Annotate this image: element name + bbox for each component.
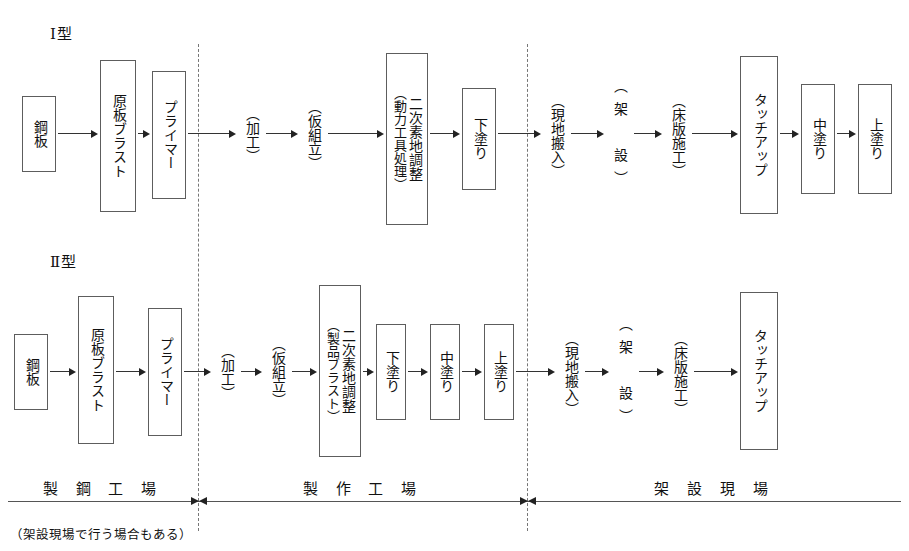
flow-arrow-head <box>229 130 236 138</box>
process-box: 二次素地調整（動力工具処理） <box>386 53 428 225</box>
flow-arrow-head <box>91 130 98 138</box>
process-text-stack: 上塗り <box>868 118 882 160</box>
flow-connector-line <box>408 371 421 372</box>
flow-arrow-head <box>849 130 856 138</box>
process-label-main: 下塗り <box>384 351 398 393</box>
zone-divider-1 <box>198 44 199 531</box>
flow-connector-line <box>498 133 534 134</box>
zone-ruler <box>8 501 901 502</box>
flow-arrow-head <box>534 130 541 138</box>
process-text-stack: 鋼板 <box>32 120 46 148</box>
process-text-stack: 二次素地調整（動力工具処理） <box>393 87 421 191</box>
process-box: 上塗り <box>484 324 514 420</box>
process-label-main: （現地搬入） <box>549 94 563 178</box>
flow-arrow-head <box>597 130 604 138</box>
process-text-stack: 原板ブラスト <box>111 94 125 178</box>
process-label-main: （加工） <box>219 344 233 400</box>
flow-connector-line <box>694 371 731 372</box>
zone-ruler-tick-1-left <box>191 497 199 505</box>
process-label: （架 設） <box>606 96 632 176</box>
process-label-main: （架 設） <box>612 79 626 194</box>
flow-arrow-head <box>69 368 76 376</box>
flow-arrow-head <box>310 368 317 376</box>
flow-connector-line <box>692 133 731 134</box>
process-label-main: （仮組立） <box>270 337 284 407</box>
flow-connector-line <box>571 133 597 134</box>
process-box: プライマー <box>152 71 186 199</box>
flow-arrow-head <box>657 368 664 376</box>
flow-arrow-head <box>792 130 799 138</box>
process-box: 下塗り <box>462 88 496 190</box>
process-box: 下塗り <box>376 324 406 420</box>
zone-divider-2 <box>527 44 528 531</box>
process-label: （床版施工） <box>666 334 692 414</box>
process-text-stack: （仮組立） <box>270 337 284 407</box>
process-label: （現地搬入） <box>543 96 569 176</box>
flow-connector-line <box>634 133 655 134</box>
process-label-main: 鋼板 <box>24 358 38 386</box>
process-box: タッチアップ <box>740 292 778 450</box>
process-label: （仮組立） <box>300 98 326 172</box>
flow-connector-line <box>639 371 657 372</box>
flow-arrow-head <box>655 130 662 138</box>
flow-connector-line <box>328 133 377 134</box>
row1-type-label: Ⅰ型 <box>50 22 73 43</box>
process-text-stack: プライマー <box>162 100 176 170</box>
process-text-stack: 原板ブラスト <box>89 328 103 412</box>
process-label: （加工） <box>238 104 264 166</box>
process-box: 鋼板 <box>14 334 48 410</box>
process-label-main: （仮組立） <box>306 100 320 170</box>
zone-ruler-tick-2-right <box>528 497 536 505</box>
flow-connector-line <box>50 371 69 372</box>
process-box: 二次素地調整（製品ブラスト） <box>319 285 361 457</box>
footnote-text: （架設現場で行う場合もある） <box>10 524 192 543</box>
process-box: プライマー <box>148 308 182 436</box>
process-text-stack: 下塗り <box>384 351 398 393</box>
process-text-stack: 鋼板 <box>24 358 38 386</box>
process-label-main: 上塗り <box>492 351 506 393</box>
process-label-main: 中塗り <box>438 351 452 393</box>
process-box: 原板ブラスト <box>78 296 114 444</box>
process-text-stack: タッチアップ <box>752 93 766 177</box>
process-label-main: （床版施工） <box>670 94 684 178</box>
process-text-stack: 上塗り <box>492 351 506 393</box>
process-label-main: 二次素地調整 <box>339 329 353 413</box>
flow-arrow-head <box>377 130 384 138</box>
process-box: タッチアップ <box>740 56 778 214</box>
process-box: 中塗り <box>801 84 835 194</box>
flow-arrow-head <box>291 130 298 138</box>
process-text-stack: （架 設） <box>617 317 631 432</box>
flow-connector-line <box>241 371 255 372</box>
process-text-stack: タッチアップ <box>752 329 766 413</box>
process-label-main: タッチアップ <box>752 93 766 177</box>
process-label-main: 二次素地調整 <box>406 97 420 181</box>
process-text-stack: 中塗り <box>438 351 452 393</box>
process-box: 中塗り <box>430 324 460 420</box>
process-label: （仮組立） <box>264 336 290 408</box>
flow-arrow-head <box>367 368 374 376</box>
process-box: 鋼板 <box>22 96 56 172</box>
process-text-stack: （加工） <box>219 344 233 400</box>
flow-arrow-head <box>475 368 482 376</box>
flow-arrow-head <box>453 130 460 138</box>
process-label-main: （現地搬入） <box>563 332 577 416</box>
flow-connector-line <box>116 371 139 372</box>
flow-arrow-head <box>731 368 738 376</box>
process-label-main: 原板ブラスト <box>89 328 103 412</box>
process-label: （架 設） <box>611 334 637 414</box>
process-label-main: 上塗り <box>868 118 882 160</box>
process-label: （加工） <box>213 342 239 402</box>
process-label-main: 下塗り <box>472 118 486 160</box>
zone-label-fabrication-shop: 製 作 工 場 <box>199 477 527 498</box>
process-box: 上塗り <box>858 84 892 194</box>
flow-arrow-head <box>548 368 555 376</box>
flow-arrow-head <box>204 368 211 376</box>
zone-ruler-tick-1-right <box>199 497 207 505</box>
process-text-stack: プライマー <box>158 337 172 407</box>
flow-connector-line <box>780 133 792 134</box>
zone-label-steel-mill: 製 鋼 工 場 <box>8 477 198 498</box>
process-text-stack: 二次素地調整（製品ブラスト） <box>326 319 354 423</box>
process-label-main: （床版施工） <box>672 332 686 416</box>
flow-connector-line <box>837 133 849 134</box>
process-text-stack: （架 設） <box>612 79 626 194</box>
